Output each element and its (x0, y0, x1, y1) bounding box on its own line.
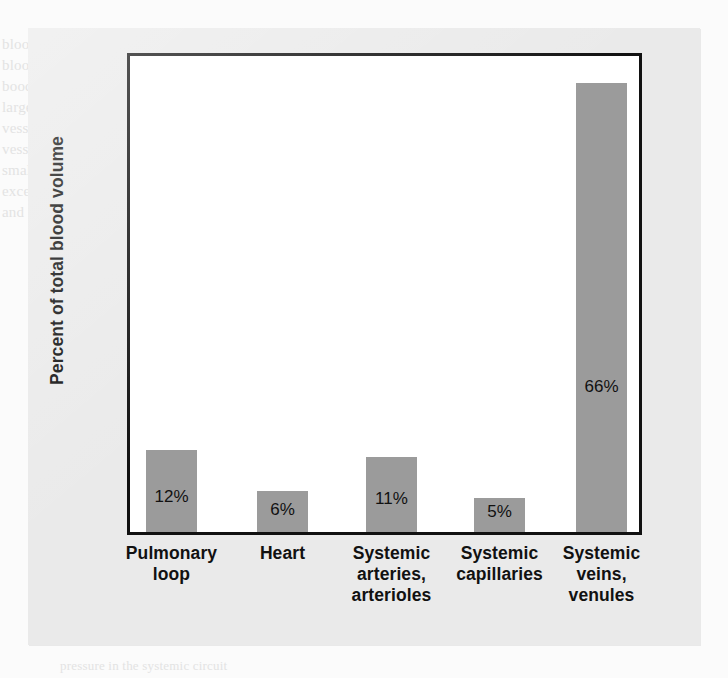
bar-4: 5% (474, 498, 525, 532)
x-axis-label-4-line-1: Systemic (441, 543, 559, 564)
bar-3: 11% (366, 457, 417, 532)
bar-1: 12% (146, 450, 197, 532)
x-axis-label-2: Heart (224, 543, 342, 564)
x-axis-label-3-line-1: Systemic (333, 543, 451, 564)
x-axis-label-3: Systemicarteries,arterioles (333, 543, 451, 606)
x-axis-label-5-line-3: venules (543, 585, 661, 606)
x-axis-label-2-line-1: Heart (224, 543, 342, 564)
x-axis-label-5-line-2: veins, (543, 564, 661, 585)
x-axis-label-4-line-2: capillaries (441, 564, 559, 585)
x-axis-label-3-line-3: arterioles (333, 585, 451, 606)
x-axis-label-5: Systemicveins,venules (543, 543, 661, 606)
bar-value-label-4: 5% (474, 502, 525, 522)
x-axis-label-5-line-1: Systemic (543, 543, 661, 564)
x-axis-label-1: Pulmonaryloop (113, 543, 231, 585)
x-axis-label-3-line-2: arteries, (333, 564, 451, 585)
plot-area: 12%6%11%5%66% (130, 56, 639, 532)
x-axis-labels: PulmonaryloopHeartSystemicarteries,arter… (127, 543, 642, 638)
scanned-page: blood blood v bood p large b vessel vess… (0, 0, 728, 678)
bar-5: 66% (576, 83, 627, 532)
bar-chart: Percent of total blood volume 12%6%11%5%… (28, 28, 700, 645)
bar-value-label-2: 6% (257, 500, 308, 520)
bar-value-label-5: 66% (576, 377, 627, 397)
bar-value-label-3: 11% (366, 489, 417, 509)
x-axis-label-4: Systemiccapillaries (441, 543, 559, 585)
figure-panel: Percent of total blood volume 12%6%11%5%… (28, 28, 700, 645)
y-axis-label: Percent of total blood volume (47, 126, 68, 396)
x-axis-label-1-line-1: Pulmonary (113, 543, 231, 564)
page-bleed-text-bottom: pressure in the systemic circuit (60, 655, 227, 676)
bar-value-label-1: 12% (146, 487, 197, 507)
x-axis-label-1-line-2: loop (113, 564, 231, 585)
bar-2: 6% (257, 491, 308, 532)
plot-frame: 12%6%11%5%66% (127, 53, 642, 535)
